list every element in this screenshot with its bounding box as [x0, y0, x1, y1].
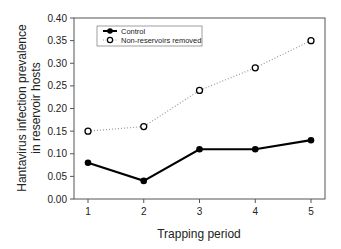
y-tick-label: 0.05 — [48, 171, 68, 182]
y-tick-label: 0.15 — [48, 126, 68, 137]
series-layer — [85, 38, 315, 185]
removed-point-marker-icon — [141, 124, 147, 130]
control-point-marker-icon — [308, 137, 315, 144]
x-axis: 12345 — [85, 199, 314, 217]
x-tick-label: 3 — [197, 206, 203, 217]
legend-removed-label: Non-reservoirs removed — [121, 36, 201, 45]
y-tick-label: 0.40 — [48, 13, 68, 24]
removed-point-marker-icon — [197, 87, 203, 93]
legend-control-label: Control — [121, 27, 146, 36]
y-tick-label: 0.25 — [48, 80, 68, 91]
legend-removed-marker-icon — [107, 37, 112, 42]
line-chart: 0.000.050.100.150.200.250.300.350.40 123… — [0, 0, 341, 249]
y-tick-label: 0.30 — [48, 58, 68, 69]
legend: Control Non-reservoirs removed — [97, 26, 202, 46]
y-tick-label: 0.20 — [48, 103, 68, 114]
y-axis-label-line2: in reservoir hosts — [29, 62, 43, 153]
removed-point-marker-icon — [252, 65, 258, 71]
x-tick-label: 4 — [252, 206, 258, 217]
y-axis: 0.000.050.100.150.200.250.300.350.40 — [48, 13, 74, 205]
series-line-non-reservoirs-removed — [88, 41, 311, 132]
y-tick-label: 0.10 — [48, 148, 68, 159]
removed-point-marker-icon — [308, 38, 314, 44]
y-tick-label: 0.35 — [48, 35, 68, 46]
control-point-marker-icon — [85, 160, 92, 167]
y-tick-label: 0.00 — [48, 194, 68, 205]
control-point-marker-icon — [140, 178, 147, 185]
x-tick-label: 1 — [85, 206, 91, 217]
x-tick-label: 2 — [141, 206, 147, 217]
control-point-marker-icon — [196, 146, 203, 153]
x-tick-label: 5 — [308, 206, 314, 217]
removed-point-marker-icon — [85, 128, 91, 134]
x-axis-label: Trapping period — [157, 227, 241, 241]
control-point-marker-icon — [252, 146, 259, 153]
y-axis-label-line1: Hantavirus infection prevalence — [15, 24, 29, 192]
legend-control-marker-icon — [107, 28, 113, 34]
